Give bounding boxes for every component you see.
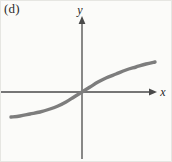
x-axis-arrow-icon	[149, 89, 157, 96]
figure-panel: (d) y x	[0, 0, 172, 162]
x-axis-label: x	[159, 85, 166, 99]
function-curve	[11, 62, 155, 117]
plot-canvas: y x	[0, 0, 172, 162]
y-axis-arrow-icon	[79, 16, 86, 24]
y-axis-label: y	[76, 3, 83, 17]
